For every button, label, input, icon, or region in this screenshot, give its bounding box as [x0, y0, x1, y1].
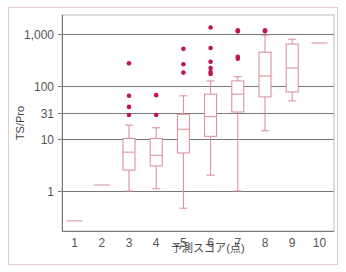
x-axis-title: 予測スコア(点) — [171, 241, 244, 254]
y-tick-label: 1,000 — [24, 28, 54, 42]
y-tick-label: 100 — [34, 80, 54, 94]
outlier-point — [181, 47, 186, 52]
box-7 — [232, 28, 244, 191]
y-tick-label: 31 — [41, 107, 55, 121]
y-tick-label: 1 — [47, 185, 54, 199]
box-4 — [150, 93, 162, 189]
outlier-point — [181, 62, 186, 67]
y-tick-label: 10 — [41, 133, 55, 147]
iqr-box — [205, 94, 217, 136]
x-tick-label: 2 — [98, 236, 105, 250]
outlier-point — [127, 105, 132, 110]
outlier-point — [236, 54, 241, 59]
box-9 — [286, 39, 298, 101]
outlier-point — [263, 28, 268, 33]
iqr-box — [177, 114, 189, 153]
outlier-point — [208, 66, 213, 71]
x-tick-label: 8 — [262, 236, 269, 250]
iqr-box — [259, 52, 271, 97]
outlier-point — [127, 113, 132, 118]
outlier-point — [181, 70, 186, 75]
outlier-point — [208, 70, 213, 75]
x-tick-label: 4 — [153, 236, 160, 250]
y-axis-title: TS/Pro — [14, 106, 26, 140]
x-tick-label: 10 — [313, 236, 327, 250]
outlier-point — [154, 113, 159, 118]
box-6 — [205, 25, 217, 175]
outlier-point — [154, 93, 159, 98]
y-tick-labels: 110311001,000 — [24, 28, 54, 199]
iqr-box — [232, 81, 244, 112]
iqr-box — [123, 139, 135, 171]
x-tick-label: 1 — [71, 236, 78, 250]
box-8 — [259, 28, 271, 131]
box-plot-chart: 110311001,000 12345678910 TS/Pro 予測スコア(点… — [0, 0, 346, 272]
x-tick-label: 9 — [289, 236, 296, 250]
outlier-point — [208, 25, 213, 30]
iqr-box — [150, 139, 162, 166]
x-tick-label: 3 — [126, 236, 133, 250]
box-5 — [177, 47, 189, 209]
outlier-point — [127, 61, 132, 66]
outlier-point — [208, 59, 213, 64]
outlier-point — [127, 94, 132, 99]
outlier-point — [208, 46, 213, 51]
outlier-point — [236, 28, 241, 33]
box-3 — [123, 61, 135, 191]
